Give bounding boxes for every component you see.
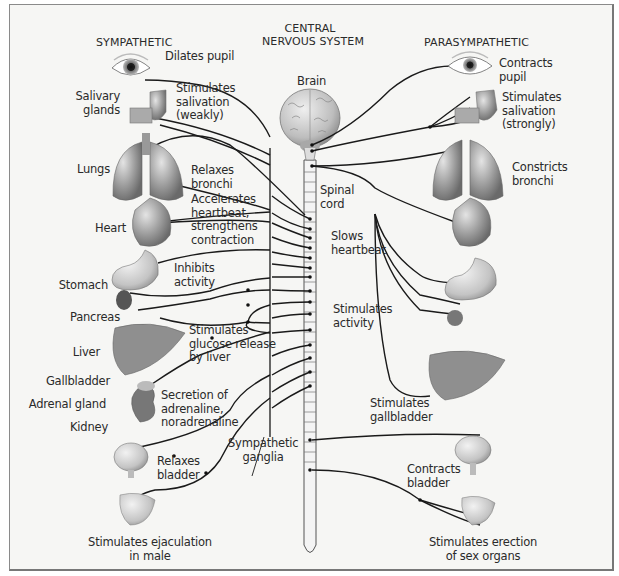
salivary-glands-parasympathetic — [455, 90, 497, 123]
sym-effect-lungs: Relaxes bronchi — [191, 164, 234, 191]
sym-effect-sex: Stimulates ejaculation in male — [80, 536, 220, 563]
stomach-label: Stomach — [50, 279, 108, 293]
brain-label: Brain — [297, 75, 326, 89]
para-effect-sex: Stimulates erection of sex organs — [418, 536, 548, 563]
para-effect-bladder: Contracts bladder — [407, 463, 461, 490]
adrenal-gland-label: Adrenal gland — [20, 398, 106, 412]
para-effect-lungs: Constricts bronchi — [512, 161, 568, 188]
liver-parasympathetic — [429, 351, 505, 400]
heart-parasympathetic — [452, 198, 490, 246]
bladder-sympathetic — [114, 443, 148, 478]
liver-sympathetic — [113, 324, 185, 375]
kidney-sympathetic — [132, 381, 155, 422]
parasympathetic-header: PARASYMPATHETIC — [424, 36, 529, 49]
sympathetic-header: SYMPATHETIC — [96, 36, 172, 49]
salivary-glands-sympathetic — [130, 90, 166, 123]
heart-sympathetic — [132, 198, 170, 246]
sym-effect-stomach: Inhibits activity — [174, 262, 215, 289]
lungs-parasympathetic — [433, 140, 503, 200]
sym-effect-heart: Accelerates heartbeat, strengthens contr… — [191, 193, 258, 247]
sym-effect-salivary: Stimulates salivation (weakly) — [176, 82, 235, 123]
spinal-cord-label: Spinal cord — [320, 184, 354, 211]
stomach-sympathetic — [112, 250, 158, 310]
sympathetic-ganglia-label: Sympathetic ganglia — [228, 437, 298, 464]
sym-effect-adrenal: Secretion of adrenaline, noradrenaline — [161, 389, 238, 430]
liver-label: Liver — [60, 346, 100, 360]
para-effect-eye: Contracts pupil — [499, 57, 553, 84]
para-effect-salivary: Stimulates salivation (strongly) — [502, 91, 561, 132]
sym-effect-bladder: Relaxes bladder — [157, 455, 200, 482]
kidney-label: Kidney — [50, 421, 108, 435]
male-organs-sympathetic — [120, 493, 155, 525]
eye-sympathetic — [112, 54, 150, 75]
gallbladder-label: Gallbladder — [30, 375, 110, 389]
heart-label: Heart — [80, 222, 126, 236]
cns-header-line1: CENTRAL — [262, 22, 358, 35]
brain-illustration — [280, 89, 340, 160]
stomach-parasympathetic — [445, 258, 496, 326]
salivary-glands-label: Salivary glands — [60, 90, 120, 117]
sym-effect-eye: Dilates pupil — [165, 50, 234, 64]
sym-effect-liver: Stimulates glucose release by liver — [189, 324, 276, 365]
lungs-label: Lungs — [60, 163, 110, 177]
pancreas-label: Pancreas — [60, 311, 120, 325]
para-effect-stomach: Stimulates activity — [333, 303, 392, 330]
eye-parasympathetic — [448, 52, 492, 74]
cns-header-line2: NERVOUS SYSTEM — [262, 35, 358, 48]
para-effect-gallbladder: Stimulates gallbladder — [370, 397, 432, 424]
lungs-sympathetic — [113, 133, 183, 200]
para-effect-heart: Slows heartbeat — [331, 230, 386, 257]
